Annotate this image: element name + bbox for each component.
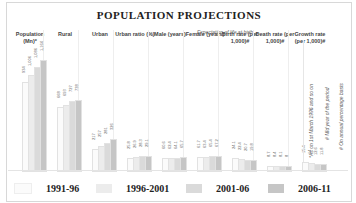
bar [285,166,292,172]
column-divider [218,30,219,170]
column-header: Urban ratio (%) [115,31,155,38]
bar-value-label: 64.1 [173,141,178,149]
footnote-3: # On annual percentage basis [338,83,344,150]
bar-value-label: 1,164 [39,41,44,51]
bar-value-label: 281 [103,128,108,135]
bar-value-label: 28.3 [138,140,143,148]
footnote-1: *As on 1st March 1996 and so on [308,84,314,158]
chart-title: POPULATION PROJECTIONS [7,9,351,21]
column-header: Female (years) [185,31,225,38]
column-header: Birth rate (per 1,000)# [220,31,260,45]
legend-item-2001-06: 2001-06 [186,183,249,194]
bar-value-label: 65.7 [179,140,184,148]
bar-value-label: 8.1 [278,151,283,157]
column-divider [183,30,184,170]
bar-value-label: 738 [74,85,79,92]
legend-swatch [14,183,32,194]
column-divider [288,30,289,170]
bar-value-label: 1,086 [33,48,38,58]
legend-swatch [268,184,284,193]
bar-value-label: 217 [91,134,96,141]
legend-label: 2001-06 [216,183,249,194]
bar-value-label: 29.1 [144,139,149,147]
legend-item-2006-11: 2006-11 [268,183,331,194]
bar-value-label: 63.4 [202,140,207,148]
bar-value-label: 61.7 [196,140,201,148]
column-header: Male (years) [150,31,190,38]
column-header: Population (Mn)* [10,31,50,45]
bar-value-label: 693 [62,89,67,96]
bar-value-label: 19.8 [249,143,254,151]
column-header: Death rate (per 1,000)# [255,31,295,45]
bar-value-label: 668 [56,91,61,98]
bar-value-label: 8.4 [272,151,277,157]
bar-value-label: 22.4 [237,142,242,150]
bar-value-label: 24.1 [231,141,236,149]
bar-value-label: 26.9 [132,140,137,148]
column-header: Urban [80,31,120,38]
column-header: Rural [45,31,85,38]
bar-value-label: 326 [109,124,114,131]
legend-swatch [186,184,202,193]
bar-value-label: 8 [284,155,289,157]
bar-value-label: 25.8 [126,141,131,149]
bar-value-label: 60.6 [161,141,166,149]
bar-value-label: 727 [68,86,73,93]
legend-item-1991-96: 1991-96 [14,183,79,194]
column-divider [148,30,149,170]
baseline [8,170,348,171]
bar-value-label: 62.4 [167,141,172,149]
legend-label: 2006-11 [298,183,331,194]
legend-label: 1991-96 [46,183,79,194]
bar-value-label: 20.7 [243,143,248,151]
bar-value-label: 65.4 [208,140,213,148]
legend-swatch [96,184,112,193]
bar-value-label: 67.2 [214,139,219,147]
bar-value-label: 8.7 [266,151,271,157]
legend-label: 1996-2001 [126,183,169,194]
bar [75,100,82,172]
footnotes: *As on 1st March 1996 and so on # Mid ye… [303,40,350,162]
bar-value-label: 1,006 [27,56,32,66]
legend-item-1996-2001: 1996-2001 [96,183,169,194]
bar [110,139,117,172]
bar-value-label: 257 [97,130,102,137]
legend: 1991-96 1996-2001 2001-06 2006-11 [6,181,350,199]
bar-value-label: 934 [21,66,26,73]
footnote-2: # Mid year of the period [324,87,330,140]
bar [40,60,47,172]
